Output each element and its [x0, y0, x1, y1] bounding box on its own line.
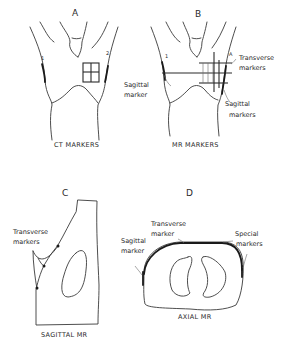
annotation-transverse-marker-d2: marker	[151, 230, 175, 238]
panel-a-caption: CT MARKERS	[54, 141, 99, 149]
annotation-transverse-markers-b1: Transverse	[238, 54, 274, 62]
marker-label-ab: A	[229, 51, 233, 57]
annotation-special-markers-d1: Special	[235, 230, 259, 238]
panel-a: A 1 2 CT MARKERS	[30, 8, 118, 149]
annotation-sagittal-marker-b1: Sagittal	[124, 81, 149, 89]
panel-a-letter: A	[72, 8, 79, 18]
annotation-sagittal-marker-b2: marker	[124, 91, 148, 99]
marker-label-1b: 1	[165, 53, 168, 59]
panel-b-caption: MR MARKERS	[172, 141, 219, 149]
mr-grid-marker	[162, 52, 232, 92]
panel-c-caption: SAGITTAL MR	[41, 331, 88, 339]
sagittal-outline	[33, 200, 99, 325]
annotation-sagittal-marker-d2: marker	[121, 247, 145, 255]
panel-b-letter: B	[195, 9, 201, 19]
annotation-transverse-markers-c1: Transverse	[12, 228, 48, 236]
marker-dot	[36, 287, 39, 290]
torso-outline-b	[151, 22, 236, 136]
annotation-sagittal-markers-b1: Sagittal	[225, 100, 250, 108]
marker-label-1: 1	[41, 55, 44, 61]
annotation-sagittal-markers-b2: markers	[229, 111, 256, 119]
panel-c-letter: C	[62, 188, 68, 198]
marker-label-2: 2	[106, 50, 109, 56]
axial-outline	[143, 242, 243, 310]
panel-d-caption: AXIAL MR	[178, 313, 212, 321]
annotation-transverse-markers-b2: markers	[239, 64, 266, 72]
diagram-figure: A 1 2 CT MARKERS B	[0, 0, 286, 348]
annotation-sagittal-marker-d1: Sagittal	[121, 237, 146, 245]
ct-grid-marker	[83, 63, 99, 82]
marker-dot	[57, 245, 60, 248]
panel-c: C Transverse markers SAGITTAL MR	[12, 188, 99, 339]
annotation-special-markers-d2: markers	[236, 240, 263, 248]
panel-d-letter: D	[186, 188, 193, 198]
annotation-transverse-marker-d1: Transverse	[150, 220, 186, 228]
panel-d: D Transverse marker Sagittal marker Spec…	[121, 188, 263, 321]
marker-dot	[43, 265, 46, 268]
torso-outline-a	[30, 22, 118, 140]
panel-b: B 1 A Transverse	[124, 9, 274, 149]
annotation-transverse-markers-c2: markers	[13, 238, 40, 246]
